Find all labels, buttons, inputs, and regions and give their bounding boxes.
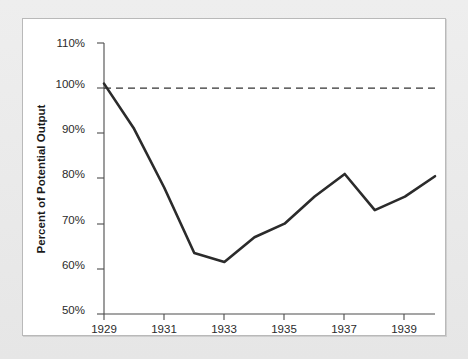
line-chart: 110% 100% 90% 80% 70% 60% 50% [23, 19, 447, 337]
y-axis-tick-labels: 110% 100% 90% 80% 70% 60% 50% [56, 37, 85, 316]
y-tick-label-90: 90% [62, 123, 85, 135]
x-tick-label-1933: 1933 [211, 323, 237, 335]
x-tick-label-1939: 1939 [391, 323, 417, 335]
y-tick-label-110: 110% [56, 37, 85, 49]
x-tick-label-1937: 1937 [331, 323, 357, 335]
y-tick-label-80: 80% [62, 168, 85, 180]
chart-svg: 110% 100% 90% 80% 70% 60% 50% [23, 19, 447, 337]
figure-frame: 110% 100% 90% 80% 70% 60% 50% [0, 0, 468, 359]
x-tick-label-1935: 1935 [271, 323, 297, 335]
x-tick-label-1929: 1929 [91, 323, 117, 335]
plot-card: 110% 100% 90% 80% 70% 60% 50% [22, 18, 446, 336]
output-series-line [104, 84, 435, 262]
y-tick-label-60: 60% [62, 259, 85, 271]
y-axis-title: Percent of Potential Output [35, 104, 47, 253]
x-axis-tick-labels: 1929 1931 1933 1935 1937 1939 [91, 323, 417, 335]
y-tick-label-70: 70% [62, 214, 85, 226]
x-axis [104, 314, 435, 320]
y-tick-label-50: 50% [62, 304, 85, 316]
y-tick-label-100: 100% [56, 78, 85, 90]
x-tick-label-1931: 1931 [151, 323, 177, 335]
